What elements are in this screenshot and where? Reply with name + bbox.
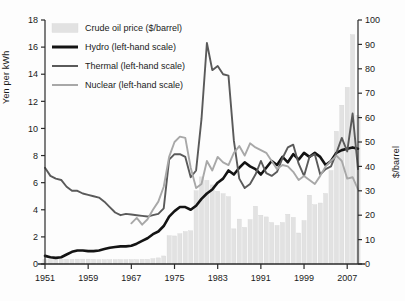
oil-price-bar	[297, 233, 301, 264]
oil-price-bar	[167, 236, 171, 264]
oil-price-bar	[307, 195, 311, 264]
left-axis-tick-label: 8	[33, 151, 38, 161]
oil-price-bar	[329, 171, 333, 264]
oil-price-bar	[232, 229, 236, 264]
x-axis-tick-label: 1959	[78, 273, 98, 283]
x-axis-tick-label: 2007	[337, 273, 357, 283]
oil-price-bar	[253, 206, 257, 264]
oil-price-bar	[81, 259, 85, 264]
oil-price-bar	[194, 191, 198, 264]
oil-price-bar	[318, 203, 322, 264]
oil-price-bar	[302, 221, 306, 264]
right-axis-tick-label: 10	[365, 235, 375, 245]
right-axis-tick-label: 80	[365, 64, 375, 74]
oil-price-bar	[248, 220, 252, 264]
oil-price-bar	[280, 223, 284, 264]
oil-price-bar	[178, 234, 182, 264]
oil-price-bar	[340, 105, 344, 264]
right-axis-tick-label: 50	[365, 137, 375, 147]
chart-plot-area: 0246810121416180102030405060708090100195…	[0, 0, 405, 301]
right-axis-tick-label: 40	[365, 162, 375, 172]
legend-swatch-bar	[52, 24, 78, 33]
right-axis-tick-label: 60	[365, 113, 375, 123]
oil-price-bar	[210, 185, 214, 264]
right-axis-tick-label: 30	[365, 186, 375, 196]
oil-price-bar	[156, 258, 160, 264]
legend-item-label: Crude oil price ($/barrel)	[85, 23, 182, 33]
left-axis-tick-label: 12	[28, 97, 38, 107]
oil-price-bar	[226, 197, 230, 264]
oil-price-bar	[291, 217, 295, 264]
oil-price-bar	[86, 259, 90, 264]
oil-price-bar	[183, 232, 187, 264]
x-axis-tick-label: 1975	[165, 273, 185, 283]
oil-price-bar	[75, 259, 79, 264]
oil-price-bar	[324, 193, 328, 264]
left-axis-tick-label: 16	[28, 42, 38, 52]
oil-price-bar	[264, 217, 268, 264]
legend-item-label: Hydro (left-hand scale)	[85, 42, 176, 52]
left-axis-tick-label: 2	[33, 232, 38, 242]
oil-price-bar	[351, 35, 355, 264]
oil-price-bar	[216, 191, 220, 264]
left-axis-tick-label: 0	[33, 259, 38, 269]
oil-price-bar	[313, 205, 317, 264]
oil-price-bar	[275, 225, 279, 264]
oil-price-bar	[243, 227, 247, 264]
left-axis-tick-label: 6	[33, 178, 38, 188]
oil-price-bar	[189, 231, 193, 264]
crude-oil-electricity-cost-chart: Yen per kWh $/barrel 0246810121416180102…	[0, 0, 405, 301]
oil-price-bar	[259, 215, 263, 264]
right-axis-tick-label: 100	[365, 15, 380, 25]
oil-price-bar	[221, 194, 225, 264]
oil-price-bar	[237, 219, 241, 264]
legend-item-label: Thermal (left-hand scale)	[85, 61, 185, 71]
x-axis-tick-label: 1999	[294, 273, 314, 283]
oil-price-bar	[270, 223, 274, 264]
oil-price-bar	[199, 177, 203, 264]
left-axis-tick-label: 18	[28, 15, 38, 25]
right-axis-tick-label: 70	[365, 88, 375, 98]
x-axis-tick-label: 1991	[251, 273, 271, 283]
right-axis-tick-label: 0	[365, 259, 370, 269]
oil-price-bar	[162, 256, 166, 264]
left-axis-tick-label: 10	[28, 124, 38, 134]
x-axis-tick-label: 1967	[121, 273, 141, 283]
legend-item-label: Nuclear (left-hand scale)	[85, 80, 183, 90]
left-axis-tick-label: 14	[28, 69, 38, 79]
chart-legend: Crude oil price ($/barrel)Hydro (left-ha…	[52, 23, 185, 90]
left-axis-tick-label: 4	[33, 205, 38, 215]
x-axis-tick-label: 1951	[35, 273, 55, 283]
oil-price-bar	[151, 259, 155, 264]
x-axis-tick-label: 1983	[208, 273, 228, 283]
right-axis-tick-label: 90	[365, 40, 375, 50]
oil-price-bar	[172, 236, 176, 264]
right-axis-tick-label: 20	[365, 210, 375, 220]
oil-price-bar	[286, 214, 290, 264]
